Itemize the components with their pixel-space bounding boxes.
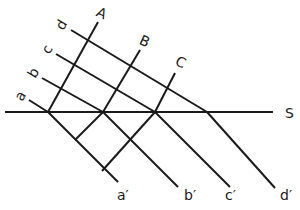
wavefront-below-2 (102, 112, 155, 171)
refraction-diagram: a b c d A B C S a′ b′ c′ d′ (0, 0, 300, 210)
label-surface-s: S (285, 105, 294, 121)
ray-a-incident (29, 100, 48, 112)
ray-d-refracted (207, 112, 275, 188)
label-ray-c-out: c′ (225, 187, 236, 203)
label-front-a: A (94, 4, 110, 23)
label-ray-c: c (38, 42, 56, 57)
label-ray-a-out: a′ (117, 187, 129, 203)
label-ray-d-out: d′ (280, 187, 292, 203)
ray-c-incident (56, 54, 155, 112)
wavefront-a (48, 22, 98, 112)
label-ray-b: b (24, 65, 42, 81)
label-ray-d: d (52, 17, 70, 33)
wavefront-below-1 (75, 112, 103, 140)
ray-a-refracted (48, 112, 118, 182)
label-ray-b-out: b′ (184, 187, 196, 203)
label-front-c: C (173, 53, 189, 72)
label-front-b: B (137, 32, 152, 51)
label-ray-a: a (11, 88, 29, 103)
wavefront-c (155, 73, 175, 112)
